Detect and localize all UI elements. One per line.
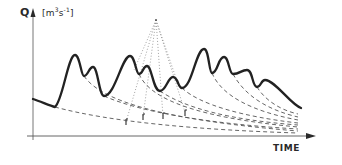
y-axis [31,8,36,140]
x-axis-arrow-icon [306,133,316,139]
x-axis-label: TIME [273,143,300,153]
x-axis [27,133,316,139]
convergence-fan [126,19,185,122]
recession-markers [126,110,187,125]
y-axis-arrow-icon [31,8,36,17]
unit-suffix: ] [70,8,74,18]
hydrograph-diagram: Q [m3s-1] TIME [0,0,342,165]
y-axis-unit: [m3s-1] [42,6,74,18]
fan-origin-point [155,19,157,21]
unit-prefix: [m [42,8,55,18]
diagram-canvas [0,0,342,165]
y-axis-symbol: Q [20,6,29,19]
